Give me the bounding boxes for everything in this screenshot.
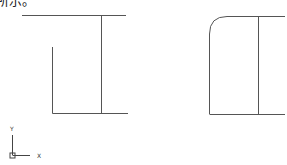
drawing-canvas: Y X: [0, 0, 287, 165]
ucs-axis-icon: [10, 135, 30, 158]
right-profile-figure: [210, 17, 286, 115]
left-profile-figure: [22, 16, 128, 114]
y-axis-label: Y: [9, 125, 14, 132]
right-filleted-outline: [210, 17, 286, 115]
x-axis-label: X: [37, 152, 41, 159]
